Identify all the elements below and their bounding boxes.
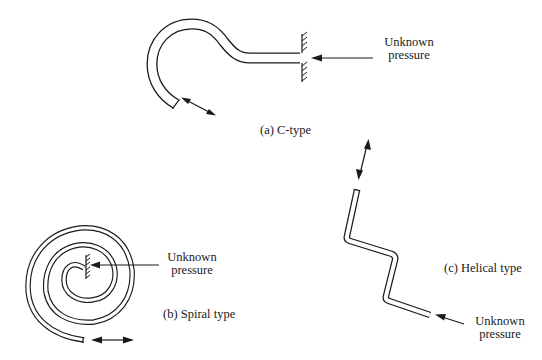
c-type-caption: (a) C-type (260, 124, 311, 137)
helical-pressure-label: Unknown pressure (465, 315, 535, 341)
c-type-pressure-arrow-icon (311, 55, 373, 62)
spiral-pressure-arrow-icon (90, 262, 159, 269)
helical-pressure-arrow-icon (435, 314, 464, 324)
helical-caption: (c) Helical type (444, 262, 522, 275)
pressure-label-line2: pressure (465, 328, 535, 341)
spiral-fixed-wall-icon (86, 254, 90, 279)
spiral-type-tube (28, 228, 132, 343)
spiral-tip-motion-arrow-icon (91, 337, 134, 344)
bourdon-tube-diagram (0, 0, 542, 360)
pressure-label-line2: pressure (159, 264, 225, 277)
c-type-fixed-wall-icon (302, 32, 307, 82)
c-type-tube (152, 24, 300, 109)
helical-tip-motion-arrow-icon (356, 139, 371, 180)
spiral-pressure-label: Unknown pressure (159, 251, 225, 277)
helical-type-tube (347, 189, 430, 315)
c-type-pressure-label: Unknown pressure (374, 36, 444, 62)
spiral-caption: (b) Spiral type (163, 308, 235, 321)
pressure-label-line2: pressure (374, 49, 444, 62)
c-type-tip-motion-arrow-icon (181, 98, 216, 116)
